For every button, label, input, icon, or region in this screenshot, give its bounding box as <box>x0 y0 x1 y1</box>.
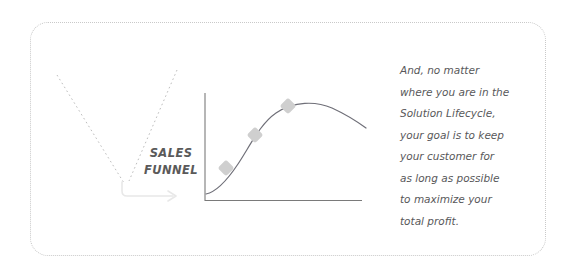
caption-line: your customer for <box>400 146 530 168</box>
chart-marker-diamond-3 <box>280 98 297 115</box>
caption-line: total profit. <box>400 211 530 233</box>
caption-line: as long as possible <box>400 168 530 190</box>
caption-line: where you are in the <box>400 82 530 104</box>
funnel-left-edge-line <box>57 75 124 183</box>
slide-canvas: SALES FUNNEL And, no matter where you ar… <box>0 0 578 278</box>
funnel-label-line-1: SALES <box>150 146 193 160</box>
caption-line: to maximize your <box>400 189 530 211</box>
caption-line: your goal is to keep <box>400 125 530 147</box>
sales-funnel-graphic: SALES FUNNEL <box>40 55 200 215</box>
chart-marker-diamond-1 <box>218 160 235 177</box>
chart-markers <box>218 98 297 177</box>
solution-lifecycle-chart <box>198 86 378 211</box>
chart-svg <box>198 86 378 211</box>
caption-line: And, no matter <box>400 60 530 82</box>
chart-lifecycle-curve <box>206 103 366 194</box>
caption-text: And, no matter where you are in the Solu… <box>400 60 530 232</box>
caption-line: Solution Lifecycle, <box>400 103 530 125</box>
funnel-svg <box>40 55 200 215</box>
curved-arrow-right-icon <box>122 182 173 196</box>
